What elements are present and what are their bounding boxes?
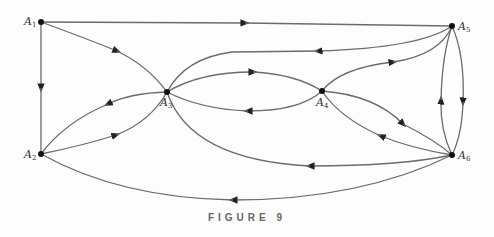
edge-a4-a5	[322, 62, 393, 91]
node-a2	[38, 151, 44, 157]
label-a3: A3	[160, 97, 172, 110]
label-a1: A1	[24, 16, 36, 29]
node-a4	[319, 88, 325, 94]
edge-a1-a5	[41, 22, 245, 23]
label-a2: A2	[24, 149, 36, 162]
node-a3	[164, 89, 170, 95]
node-a6	[449, 152, 455, 158]
directed-graph-figure: A1 A2 A3 A4 A5 A6 FIGURE 9	[0, 0, 494, 237]
node-a5	[449, 23, 455, 29]
figure-caption: FIGURE 9	[0, 212, 494, 223]
label-a4: A4	[316, 97, 328, 110]
edge-a1-a3	[41, 22, 117, 51]
label-a6: A6	[458, 150, 470, 163]
edge-a5-a6	[452, 26, 463, 102]
edge-a4-a3	[248, 91, 322, 111]
graph-svg	[0, 0, 494, 237]
edge-a6-a4	[381, 136, 452, 155]
edge-a2-a3	[41, 135, 116, 154]
edge-a5-a3	[318, 26, 452, 51]
edge-a4-a6	[322, 91, 403, 124]
node-a1	[38, 19, 44, 25]
edge-a3-a2	[108, 92, 167, 104]
label-a5: A5	[458, 21, 470, 34]
